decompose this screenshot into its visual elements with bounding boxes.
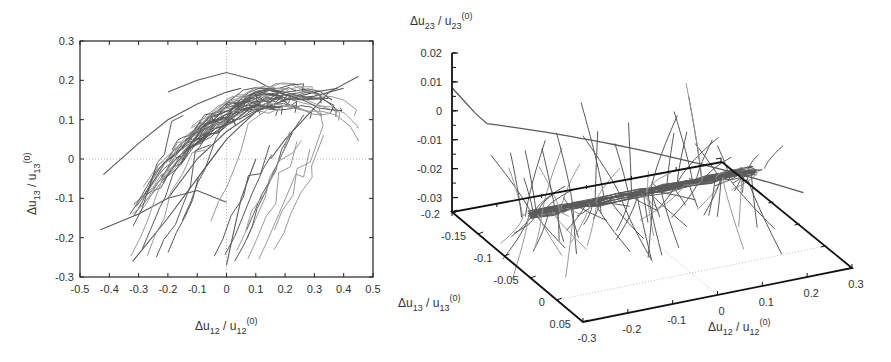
right-ztick: -0.01 [417, 134, 442, 146]
left-ytick: 0.2 [59, 74, 74, 86]
right-trajectories [452, 83, 803, 279]
left-xtick: 0.3 [307, 283, 322, 295]
left-xtick: -0.1 [188, 283, 207, 295]
left-zero-lines [80, 41, 373, 277]
left-ytick: -0.2 [55, 232, 74, 244]
right-xtick: 0.1 [759, 296, 774, 308]
left-xtick: 0.1 [248, 283, 263, 295]
right-xtick: -0.3 [578, 332, 597, 344]
left-xtick: 0 [223, 283, 229, 295]
left-xtick: -0.5 [71, 283, 90, 295]
right-xtick: 0.2 [804, 287, 819, 299]
left-xtick: 0.2 [277, 283, 292, 295]
left-xtick: -0.2 [158, 283, 177, 295]
right-zlabel: Δu23 / u23(0) [410, 11, 472, 31]
left-plot: -0.5-0.4-0.3-0.2-0.100.10.20.30.40.5-0.3… [22, 35, 381, 336]
left-ytick: -0.1 [55, 192, 74, 204]
left-xlabel: Δu12 / u12(0) [195, 316, 257, 336]
right-xtick: 0 [718, 305, 724, 317]
left-xtick: -0.4 [100, 283, 119, 295]
right-ztick: 0 [436, 105, 442, 117]
left-xtick: 0.4 [336, 283, 351, 295]
long-arc-trajectory [452, 88, 803, 193]
right-ztick: 0.02 [421, 47, 442, 59]
left-ytick: 0.1 [59, 114, 74, 126]
right-ztick: -0.03 [417, 192, 442, 204]
right-ylabel: Δu13 / u13(0) [398, 293, 460, 313]
right-ytick: -0.05 [494, 274, 519, 286]
figure: -0.5-0.4-0.3-0.2-0.100.10.20.30.40.5-0.3… [0, 0, 891, 362]
right-ytick: -0.2 [421, 208, 440, 220]
right-xtick: -0.1 [667, 314, 686, 326]
right-ztick: 0.01 [421, 76, 442, 88]
right-ztick: -0.02 [417, 163, 442, 175]
left-xtick: 0.5 [365, 283, 380, 295]
left-ytick: 0 [68, 153, 74, 165]
left-xtick: -0.3 [129, 283, 148, 295]
left-axis-ticks: -0.5-0.4-0.3-0.2-0.100.10.20.30.40.5-0.3… [55, 35, 381, 295]
right-plot-3d: Δu23 / u23(0) 0.020.010-0.01-0.02-0.03-0… [398, 11, 864, 344]
right-ytick: -0.15 [441, 230, 466, 242]
right-ytick: -0.1 [473, 252, 492, 264]
left-ytick: 0.3 [59, 35, 74, 47]
right-xtick: -0.2 [622, 323, 641, 335]
right-ytick: 0 [539, 296, 545, 308]
right-ytick: 0.05 [550, 318, 571, 330]
left-ylabel: Δu13 / u13(0) [22, 153, 42, 215]
right-xlabel: Δu12 / u12(0) [708, 317, 770, 337]
left-ytick: -0.3 [55, 271, 74, 283]
left-trajectories [101, 73, 359, 266]
right-xtick: 0.3 [848, 278, 863, 290]
